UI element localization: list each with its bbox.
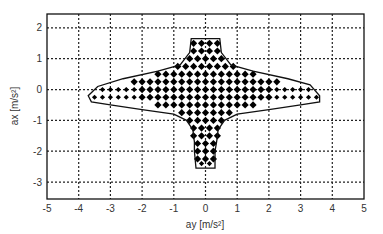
y-tick-label: -1 bbox=[33, 115, 42, 126]
y-tick-label: 0 bbox=[36, 84, 42, 95]
x-tick-label: 0 bbox=[203, 203, 209, 214]
y-tick-label: -2 bbox=[33, 146, 42, 157]
y-tick-label: 1 bbox=[36, 53, 42, 64]
scatter-chart: -5-4-3-2-1012345 210-1-2-3 ay [m/s²] ax … bbox=[0, 0, 383, 234]
x-tick-label: 3 bbox=[298, 203, 304, 214]
x-tick-label: 1 bbox=[234, 203, 240, 214]
x-tick-label: 2 bbox=[266, 203, 272, 214]
x-tick-label: 4 bbox=[330, 203, 336, 214]
y-tick-label: -3 bbox=[33, 177, 42, 188]
x-axis-label: ay [m/s²] bbox=[186, 219, 225, 230]
x-tick-label: -5 bbox=[43, 203, 52, 214]
y-tick-label: 2 bbox=[36, 22, 42, 33]
x-tick-label: -3 bbox=[106, 203, 115, 214]
x-tick-label: -2 bbox=[138, 203, 147, 214]
x-tick-label: 5 bbox=[361, 203, 367, 214]
x-tick-label: -4 bbox=[74, 203, 83, 214]
y-axis-label: ax [m/s²] bbox=[9, 87, 20, 126]
x-tick-label: -1 bbox=[169, 203, 178, 214]
